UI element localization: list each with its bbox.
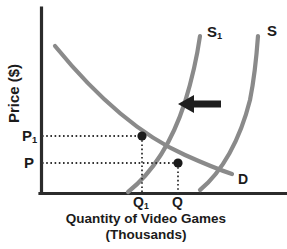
- quantity-label-q: Q: [172, 195, 183, 209]
- supply-curve-shifted: [128, 36, 200, 192]
- curve-label-d: D: [238, 172, 248, 186]
- x-axis-title-line2: (Thousands): [28, 228, 264, 242]
- curve-label-s: S: [267, 23, 277, 38]
- original-equilibrium-point: [173, 158, 182, 167]
- quantity-label-q1-base: Q: [133, 194, 144, 210]
- y-axis-title: Price ($): [6, 34, 21, 154]
- demand-curve: [55, 46, 232, 174]
- price-label-p1-base: P: [22, 127, 32, 144]
- price-label-p1-subscript: 1: [32, 135, 37, 145]
- x-axis-title: Quantity of Video Games(Thousands): [28, 212, 264, 241]
- supply-demand-figure: Price ($) P1 P Q1 Q S1 S D Quantity of V…: [0, 0, 287, 249]
- x-axis-title-line1: Quantity of Video Games: [66, 211, 226, 226]
- quantity-label-q1: Q1: [133, 195, 149, 209]
- new-equilibrium-point: [137, 131, 146, 140]
- price-label-p: P: [24, 155, 34, 170]
- quantity-label-q1-subscript: 1: [144, 201, 149, 211]
- price-label-p1: P1: [22, 128, 37, 143]
- curve-label-s1-base: S: [207, 23, 217, 40]
- curve-label-s1-subscript: 1: [217, 31, 222, 41]
- curve-label-s1: S1: [207, 24, 222, 39]
